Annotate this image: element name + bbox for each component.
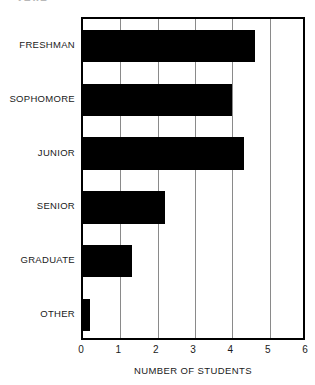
bar-band [83,137,303,169]
bar [83,84,232,116]
x-tick-label: 2 [153,344,159,355]
category-label: SOPHOMORE [0,92,75,103]
x-tick-label: 5 [265,344,271,355]
x-tick-label: 6 [302,344,308,355]
gridline-2 [158,19,159,338]
bar-band [83,299,303,331]
bar [83,137,244,169]
category-label: SENIOR [0,200,75,211]
cropped-header-text: YEAR [16,0,49,1]
category-label: OTHER [0,308,75,319]
bar [83,245,132,277]
x-tick-label: 4 [228,344,234,355]
bar [83,30,255,62]
plot-area [81,17,305,340]
gridline-1 [120,19,121,338]
category-label: GRADUATE [0,254,75,265]
bar-band [83,84,303,116]
category-label: FRESHMAN [0,38,75,49]
bar-chart: YEAR FRESHMANSOPHOMOREJUNIORSENIORGRADUA… [0,0,315,385]
x-tick-label: 0 [78,344,84,355]
x-tick-label: 1 [116,344,122,355]
bar [83,299,90,331]
bar-band [83,30,303,62]
gridline-5 [270,19,271,338]
bar-band [83,245,303,277]
x-axis-title: NUMBER OF STUDENTS [81,365,305,376]
bar-band [83,191,303,223]
gridline-3 [195,19,196,338]
category-label: JUNIOR [0,146,75,157]
bar [83,191,165,223]
x-tick-label: 3 [190,344,196,355]
gridline-4 [232,19,233,338]
